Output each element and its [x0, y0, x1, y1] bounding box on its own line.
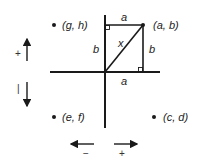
- coordinate-diagram: a b x b a (a, b) (g, h) (e, f) (c, d) + …: [0, 0, 203, 164]
- point-e-f-label: (e, f): [62, 111, 85, 123]
- point-e-f-dot: [52, 115, 56, 119]
- sign-up-plus: +: [15, 48, 21, 59]
- hypotenuse-line: [105, 25, 143, 72]
- point-a-b-dot: [141, 23, 145, 27]
- sign-right-plus: +: [119, 148, 125, 159]
- label-top-a: a: [121, 11, 127, 23]
- label-bottom-a: a: [121, 75, 127, 87]
- point-c-d-label: (c, d): [163, 111, 188, 123]
- point-a-b-label: (a, b): [153, 19, 179, 31]
- point-c-d-dot: [152, 115, 156, 119]
- label-left-b: b: [93, 43, 99, 55]
- point-g-h-dot: [52, 23, 56, 27]
- right-angle-marker-bottom: [139, 68, 143, 72]
- sign-down-minus: |: [17, 83, 20, 94]
- sign-left-minus: −: [83, 148, 89, 159]
- right-angle-marker-top: [106, 26, 110, 30]
- label-hyp-x: x: [117, 37, 124, 49]
- label-right-b: b: [149, 43, 155, 55]
- point-g-h-label: (g, h): [62, 19, 88, 31]
